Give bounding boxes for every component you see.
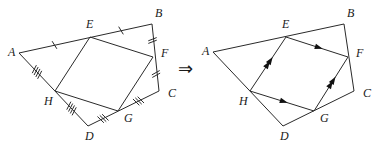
equal-length-tick — [135, 98, 141, 104]
vertex-label-e: E — [281, 17, 290, 31]
vertex-label-a: A — [7, 45, 16, 59]
left-figure-equal-segments: AEBFCGDH — [7, 6, 177, 143]
vertex-label-b: B — [155, 6, 163, 20]
parallelogram-efgh — [250, 37, 348, 111]
parallel-arrow-mark — [279, 98, 287, 103]
vertex-label-b: B — [347, 6, 355, 20]
outer-quadrilateral-abcd — [213, 24, 354, 126]
equal-length-tick — [100, 115, 106, 121]
equal-length-tick — [133, 99, 139, 105]
vertex-label-h: H — [238, 94, 249, 108]
vertex-label-a: A — [201, 44, 210, 58]
right-figure-parallelogram: AEBFCGDH — [201, 6, 372, 143]
equal-length-tick — [102, 114, 108, 120]
equal-length-tick — [97, 117, 103, 123]
vertex-label-h: H — [43, 94, 54, 108]
vertex-label-f: F — [160, 46, 169, 60]
parallel-arrow-mark — [314, 44, 322, 49]
inner-quadrilateral-efgh — [55, 37, 153, 111]
vertex-label-g: G — [320, 111, 329, 125]
implies-arrow: ⇒ — [178, 58, 193, 79]
vertex-label-d: D — [279, 129, 289, 143]
vertex-label-g: G — [124, 111, 133, 125]
vertex-label-c: C — [363, 86, 372, 100]
vertex-label-e: E — [85, 17, 94, 31]
vertex-label-f: F — [355, 46, 364, 60]
equal-length-tick — [138, 97, 144, 103]
vertex-label-c: C — [168, 86, 177, 100]
midpoint-parallelogram-diagram: AEBFCGDH ⇒ AEBFCGDH — [0, 0, 381, 148]
vertex-label-d: D — [84, 129, 94, 143]
